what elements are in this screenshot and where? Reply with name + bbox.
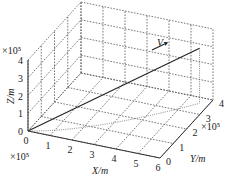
- floor-gridline-x: [116, 91, 169, 149]
- z-tick-label: 3: [18, 73, 23, 84]
- trajectory-series: [28, 42, 200, 131]
- z-tick-label: 2: [18, 91, 23, 102]
- z-scale-label: ×10⁵: [2, 45, 21, 56]
- x-tick-label: 1: [46, 140, 51, 151]
- y-scale-label: ×10⁵: [201, 121, 220, 132]
- velocity-annotation: V: [157, 37, 165, 48]
- grid: [28, 2, 213, 158]
- floor-gridline-y: [68, 88, 200, 115]
- back-wall-gridline-z: [81, 20, 213, 47]
- y-tick-label: 4: [219, 98, 224, 109]
- z-tick-label: 1: [18, 108, 23, 119]
- left-wall-gridline-z: [28, 2, 81, 60]
- y-tick-label: 0: [166, 156, 171, 167]
- x-tick-label: 4: [112, 153, 117, 164]
- floor-projection-curve: [28, 103, 200, 131]
- z-tick-label: 0: [18, 126, 23, 137]
- z-tick-label: 4: [18, 55, 23, 66]
- z-axis-title: Z/m: [5, 88, 16, 104]
- floor-gridline-x: [72, 82, 125, 140]
- x-axis-title: X/m: [91, 165, 108, 176]
- y-axis-title: Y/m: [190, 153, 206, 164]
- y-tick-label: 2: [193, 127, 198, 138]
- trajectory-line: [28, 48, 200, 131]
- floor-gridline-y: [55, 102, 187, 129]
- x-tick-label: 3: [90, 149, 95, 160]
- x-tick-label: 2: [68, 144, 73, 155]
- 3d-line-chart: 01234560123401234 ×10⁵ ×10⁵ ×10⁵ X/m Y/m…: [0, 0, 233, 180]
- y-tick-label: 1: [179, 142, 184, 153]
- x-tick-label: 5: [134, 158, 139, 169]
- x-scale-label: ×10⁵: [10, 151, 29, 162]
- left-wall-gridline-z: [28, 20, 81, 78]
- left-wall-gridline-z: [28, 55, 81, 113]
- x-tick-label: 0: [24, 135, 29, 146]
- x-tick-label: 6: [156, 162, 161, 173]
- left-wall-gridline-z: [28, 73, 81, 131]
